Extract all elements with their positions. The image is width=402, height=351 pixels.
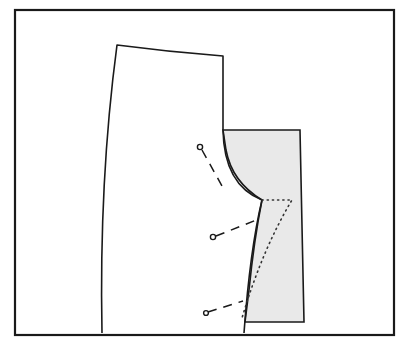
pin-head-icon [197,144,202,149]
pin-shaft-icon [202,150,222,186]
pin-middle [210,219,259,240]
pin-head-icon [204,311,209,316]
pin-bottom [204,301,243,315]
pin-head-icon [210,234,215,239]
trouser-pattern-piece [102,45,262,333]
crotch-extension-patch [223,130,304,322]
pin-shaft-icon [208,301,243,312]
pin-shaft-icon [216,219,259,236]
outer-frame [15,10,394,335]
pin-top [197,144,222,186]
pattern-diagram [0,0,402,351]
